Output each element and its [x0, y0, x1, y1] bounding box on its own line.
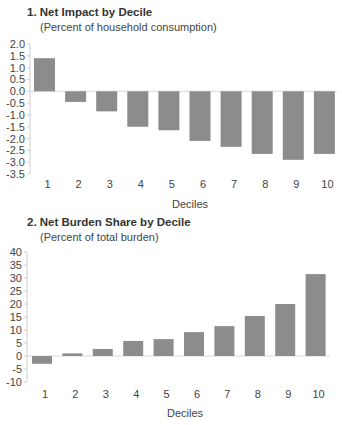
x-tick-label: 10 [312, 388, 324, 400]
bar-plot: 4035302520151050-5-1012345678910Deciles [0, 0, 342, 425]
bar [154, 339, 174, 356]
y-tick-label: 25 [10, 285, 22, 297]
bar [123, 341, 143, 356]
x-tick-label: 2 [72, 388, 78, 400]
x-tick-label: 7 [224, 388, 230, 400]
bar [184, 332, 204, 356]
bar [214, 326, 234, 356]
x-tick-label: 6 [194, 388, 200, 400]
y-tick-label: 30 [10, 272, 22, 284]
bar [275, 304, 295, 356]
bar [62, 353, 82, 356]
x-tick-label: 1 [42, 388, 48, 400]
y-tick-label: -5 [12, 363, 22, 375]
x-axis-title: Deciles [167, 407, 204, 419]
y-tick-label: 0 [16, 350, 22, 362]
y-tick-label: 20 [10, 298, 22, 310]
bar [93, 349, 113, 356]
y-tick-label: 10 [10, 324, 22, 336]
y-tick-label: 40 [10, 246, 22, 258]
x-tick-label: 9 [285, 388, 291, 400]
y-tick-label: 5 [16, 337, 22, 349]
x-tick-label: 8 [255, 388, 261, 400]
bar [306, 274, 326, 356]
x-tick-label: 5 [164, 388, 170, 400]
x-tick-label: 3 [103, 388, 109, 400]
chart-net-burden-share: 2. Net Burden Share by Decile (Percent o… [0, 0, 342, 425]
y-tick-label: 35 [10, 259, 22, 271]
y-tick-label: -10 [6, 376, 22, 388]
bar [245, 316, 265, 356]
y-tick-label: 15 [10, 311, 22, 323]
x-tick-label: 4 [133, 388, 139, 400]
bar [32, 356, 52, 364]
